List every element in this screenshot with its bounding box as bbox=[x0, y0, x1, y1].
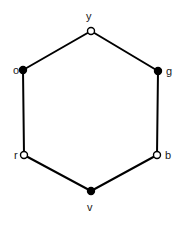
node-label-r: r bbox=[14, 150, 18, 161]
node-label-v: v bbox=[87, 202, 93, 213]
node-label-g: g bbox=[166, 66, 172, 77]
graph-edge bbox=[23, 31, 91, 70]
graph-node-o[interactable] bbox=[20, 67, 27, 74]
graph-edge bbox=[91, 31, 158, 71]
graph-edge bbox=[24, 155, 91, 191]
node-label-y: y bbox=[86, 11, 92, 22]
graph-edge bbox=[91, 155, 157, 191]
graph-node-y[interactable] bbox=[88, 28, 95, 35]
hexagon-graph-canvas bbox=[0, 0, 183, 225]
node-label-o: o bbox=[13, 65, 19, 76]
edge-layer bbox=[23, 31, 158, 191]
graph-edge bbox=[157, 71, 158, 155]
graph-node-r[interactable] bbox=[21, 152, 28, 159]
graph-node-v[interactable] bbox=[88, 188, 95, 195]
hexagon-graph-diagram: ygbvro bbox=[0, 0, 183, 225]
graph-node-g[interactable] bbox=[155, 68, 162, 75]
graph-node-b[interactable] bbox=[154, 152, 161, 159]
graph-edge bbox=[23, 70, 24, 155]
node-layer bbox=[20, 28, 162, 195]
node-label-b: b bbox=[165, 150, 171, 161]
